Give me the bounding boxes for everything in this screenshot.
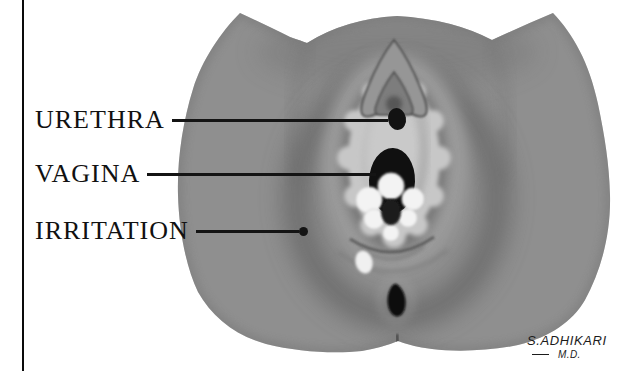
label-row-irritation: IRRITATION <box>35 214 308 248</box>
white-mass-center-opening <box>381 199 401 225</box>
label-irritation: IRRITATION <box>35 214 189 248</box>
left-border-line <box>22 0 24 371</box>
leader-line-irritation <box>196 230 299 233</box>
label-row-urethra: URETHRA <box>35 103 388 137</box>
gluteal-crease <box>397 334 398 357</box>
leader-dot-irritation <box>299 227 308 236</box>
label-vagina: VAGINA <box>35 157 140 191</box>
signature-underline <box>532 354 549 356</box>
signature-name: S.ADHIKARI <box>527 333 607 348</box>
label-urethra: URETHRA <box>35 103 165 137</box>
signature-title: M.D. <box>558 349 581 360</box>
artist-signature: S.ADHIKARI M.D. <box>527 333 607 360</box>
figure-canvas: URETHRA VAGINA IRRITATION S.ADHIKARI M.D… <box>0 0 640 371</box>
leader-line-vagina <box>147 173 376 176</box>
label-row-vagina: VAGINA <box>35 157 376 191</box>
leader-line-urethra <box>172 119 388 122</box>
